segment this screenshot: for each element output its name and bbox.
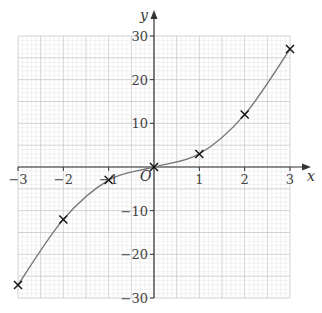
x-tick-label: 2 <box>241 172 249 187</box>
x-tick-label: 3 <box>286 172 294 187</box>
graph: −3−2−1123302010−10−20−30xyO <box>0 0 322 313</box>
origin-label: O <box>140 168 152 184</box>
x-tick-label: 1 <box>195 172 203 187</box>
y-tick-label: 10 <box>131 116 148 131</box>
y-tick-label: 30 <box>131 29 148 44</box>
y-tick-label: −30 <box>121 291 148 306</box>
x-axis-label: x <box>307 168 315 184</box>
y-tick-label: −10 <box>121 204 148 219</box>
y-axis-arrow-icon <box>151 10 158 19</box>
x-tick-label: −3 <box>8 172 27 187</box>
y-tick-label: −20 <box>121 247 148 262</box>
y-tick-label: 20 <box>131 73 148 88</box>
x-tick-label: −1 <box>99 172 118 187</box>
y-axis-label: y <box>139 7 149 23</box>
x-tick-label: −2 <box>54 172 73 187</box>
